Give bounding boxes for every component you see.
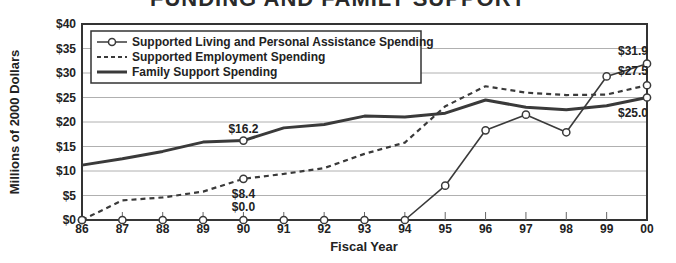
y-tick-label: $20 [56,115,76,129]
data-point-marker-icon [563,129,570,136]
y-tick-label: $40 [56,17,76,31]
line-chart: $0$5$10$15$20$25$30$35$40 86878889909192… [0,0,676,263]
data-value-label: $25.0 [618,106,648,120]
data-point-marker-icon [401,216,408,223]
data-point-marker-icon [240,216,247,223]
y-tick-label: $30 [56,66,76,80]
legend-label: Family Support Spending [132,65,277,79]
data-point-marker-icon [78,216,85,223]
y-tick-label: $5 [63,189,77,203]
series-line-0 [82,64,647,220]
y-axis-ticks: $0$5$10$15$20$25$30$35$40 [56,17,76,227]
data-series [78,60,650,224]
x-tick-label: 98 [560,222,574,236]
data-point-marker-icon [442,182,449,189]
data-point-marker-icon [361,216,368,223]
data-value-label: $16.2 [228,122,258,136]
x-tick-label: 97 [519,222,533,236]
legend-label: Supported Living and Personal Assistance… [132,35,434,49]
x-axis-label: Fiscal Year [330,239,398,254]
data-point-marker-icon [482,127,489,134]
data-point-marker-icon [643,82,650,89]
x-tick-label: 96 [479,222,493,236]
legend-label: Supported Employment Spending [132,50,325,64]
x-tick-label: 95 [439,222,453,236]
data-point-marker-icon [240,175,247,182]
data-point-marker-icon [119,216,126,223]
data-value-label: $8.4 [232,187,256,201]
data-point-marker-icon [321,216,328,223]
legend-item-supported-employment: Supported Employment Spending [97,50,325,64]
data-point-marker-icon [159,216,166,223]
legend-circle-marker-icon [109,39,116,46]
data-point-marker-icon [643,94,650,101]
data-point-marker-icon [522,111,529,118]
y-tick-label: $15 [56,140,76,154]
data-point-marker-icon [199,216,206,223]
series-line-1 [82,85,647,220]
legend-item-supported-living: Supported Living and Personal Assistance… [97,35,434,49]
data-point-marker-icon [603,73,610,80]
data-value-label: $0.0 [232,200,256,214]
data-value-label: $27.5 [618,64,648,78]
y-tick-label: $35 [56,42,76,56]
legend: Supported Living and Personal Assistance… [91,31,434,83]
data-value-label: $31.9 [618,44,648,58]
y-axis-label: Millions of 2000 Dollars [7,50,22,195]
y-tick-label: $10 [56,164,76,178]
x-tick-label: 99 [600,222,614,236]
y-tick-label: $0 [63,213,77,227]
x-tick-label: 00 [640,222,654,236]
y-tick-label: $25 [56,91,76,105]
data-point-marker-icon [240,137,247,144]
data-point-marker-icon [280,216,287,223]
